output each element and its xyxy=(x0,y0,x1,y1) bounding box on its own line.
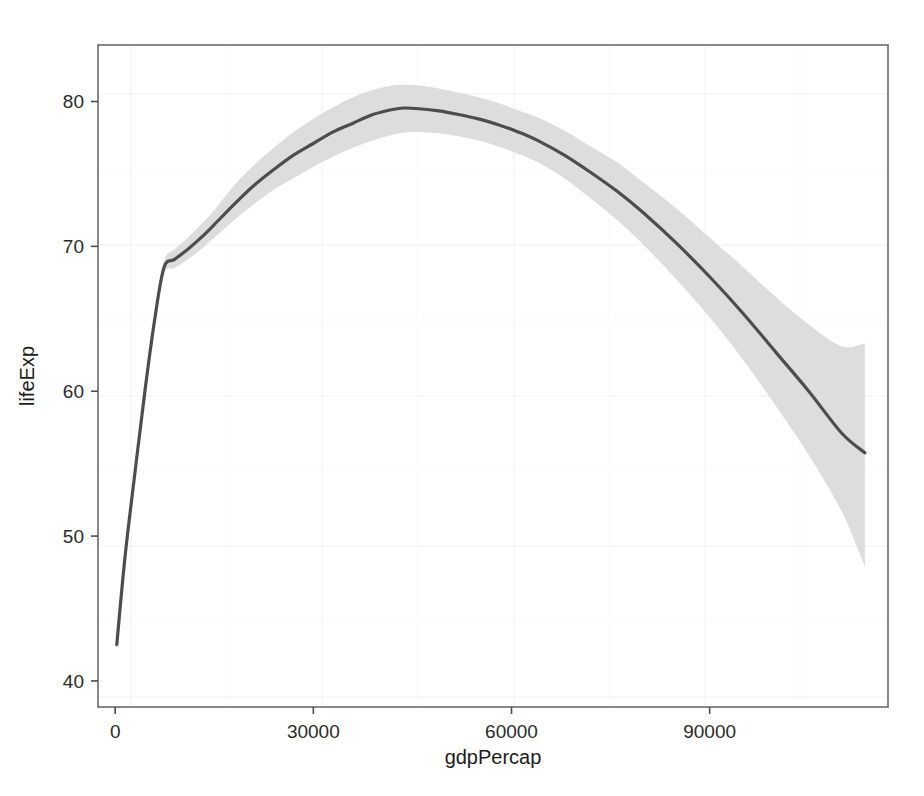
y-tick-label: 60 xyxy=(63,381,84,402)
y-tick-label: 70 xyxy=(63,236,84,257)
y-tick-label: 40 xyxy=(63,671,84,692)
y-axis-title: lifeExp xyxy=(16,346,38,406)
x-tick-label: 0 xyxy=(110,721,121,742)
x-tick-label: 30000 xyxy=(287,721,340,742)
chart-figure: 0300006000090000 4050607080 gdpPercap li… xyxy=(0,0,924,796)
x-axis-title: gdpPercap xyxy=(445,746,542,768)
chart-plot-svg: 0300006000090000 4050607080 gdpPercap li… xyxy=(0,0,924,796)
x-tick-label: 60000 xyxy=(485,721,538,742)
x-tick-label: 90000 xyxy=(683,721,736,742)
y-tick-label: 50 xyxy=(63,526,84,547)
y-tick-label: 80 xyxy=(63,91,84,112)
